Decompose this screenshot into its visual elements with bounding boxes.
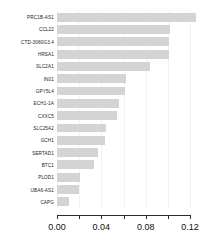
bar — [57, 87, 125, 96]
x-tick — [146, 215, 147, 219]
x-tick-label: 0.04 — [93, 222, 111, 232]
category-label: PLOD1 — [38, 175, 54, 180]
bar — [57, 37, 169, 46]
bar-fill — [57, 37, 169, 46]
category-label: CXXC5 — [38, 113, 54, 118]
bar-fill — [57, 50, 169, 59]
category-label: BTC1 — [42, 162, 54, 167]
bar — [57, 148, 98, 157]
bar — [57, 99, 119, 108]
bar-fill — [57, 74, 126, 83]
category-label: GCH1 — [41, 138, 54, 143]
category-label: CCL22 — [39, 27, 54, 32]
bar-fill — [57, 148, 98, 157]
plot-area — [57, 11, 190, 208]
bar-fill — [57, 173, 80, 182]
bar-fill — [57, 136, 105, 145]
bar — [57, 50, 169, 59]
bar-fill — [57, 25, 170, 34]
bar — [57, 111, 117, 120]
bar — [57, 25, 170, 34]
bar — [57, 62, 150, 71]
x-tick — [101, 215, 102, 219]
x-tick — [57, 215, 58, 219]
bar — [57, 173, 80, 182]
x-tick — [168, 215, 169, 219]
bar-fill — [57, 87, 125, 96]
bar — [57, 124, 106, 133]
bar-fill — [57, 185, 79, 194]
gridline-6 — [190, 11, 191, 208]
category-label: ECH1-1A — [34, 101, 54, 106]
category-label: SLC2A1 — [36, 64, 54, 69]
x-tick-label: 0.12 — [181, 222, 199, 232]
x-tick — [79, 215, 80, 219]
bar — [57, 160, 94, 169]
bar-fill — [57, 124, 106, 133]
category-label: CAPG — [40, 199, 54, 204]
bar-fill — [57, 62, 150, 71]
bar-fill — [57, 111, 117, 120]
bar-chart: PRC1B-AS1CCL22CTD-3080G3.4HRSA1SLC2A1IN0… — [0, 0, 209, 245]
bar — [57, 74, 126, 83]
bar-fill — [57, 13, 196, 22]
x-tick-label: 0.00 — [48, 222, 66, 232]
category-label: IN01 — [44, 76, 54, 81]
category-label: PRC1B-AS1 — [27, 15, 54, 20]
category-label: CTD-3080G3.4 — [21, 39, 54, 44]
x-tick-label: 0.08 — [137, 222, 155, 232]
bar-fill — [57, 160, 94, 169]
bar — [57, 13, 196, 22]
bar — [57, 185, 79, 194]
bar-fill — [57, 99, 119, 108]
x-tick — [190, 215, 191, 219]
bar-fill — [57, 197, 69, 206]
bar — [57, 197, 69, 206]
category-label: HRSA1 — [38, 52, 54, 57]
category-label: SLC25A2 — [33, 125, 54, 130]
x-tick — [124, 215, 125, 219]
category-label: GPY5L4 — [36, 89, 54, 94]
bar — [57, 136, 105, 145]
category-label: UBA6-AS1 — [31, 187, 54, 192]
category-label: SERTAD1 — [32, 150, 54, 155]
